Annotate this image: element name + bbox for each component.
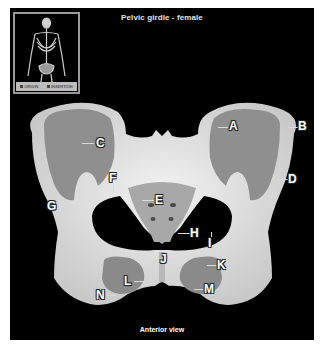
label-G[interactable]: G bbox=[47, 200, 56, 212]
label-I[interactable]: I bbox=[208, 237, 211, 249]
leader-L bbox=[134, 281, 144, 282]
leader-D bbox=[278, 179, 288, 180]
view-caption: Anterior view bbox=[10, 326, 314, 333]
label-K[interactable]: K bbox=[217, 259, 226, 271]
label-L[interactable]: L bbox=[124, 275, 131, 287]
leader-A bbox=[218, 127, 228, 128]
leader-E bbox=[142, 200, 154, 201]
label-M[interactable]: M bbox=[204, 283, 214, 295]
figure-panel: Pelvic girdle - female ORI bbox=[10, 8, 314, 340]
label-E[interactable]: E bbox=[155, 194, 163, 206]
label-N[interactable]: N bbox=[96, 289, 105, 301]
leader-F bbox=[113, 185, 114, 193]
label-J[interactable]: J bbox=[160, 253, 167, 265]
leader-I bbox=[211, 232, 212, 237]
leader-B bbox=[288, 127, 298, 128]
label-B[interactable]: B bbox=[298, 120, 307, 132]
label-C[interactable]: C bbox=[96, 137, 105, 149]
leader-C bbox=[82, 143, 94, 144]
label-F[interactable]: F bbox=[109, 172, 116, 184]
leader-K bbox=[207, 265, 217, 266]
leader-N bbox=[106, 295, 116, 296]
label-D[interactable]: D bbox=[288, 173, 297, 185]
leader-M bbox=[194, 289, 204, 290]
pelvis-illustration bbox=[10, 8, 314, 340]
leader-J bbox=[170, 259, 179, 260]
leader-H bbox=[178, 233, 190, 234]
label-A[interactable]: A bbox=[229, 120, 238, 132]
label-H[interactable]: H bbox=[190, 227, 199, 239]
leader-G bbox=[60, 206, 69, 207]
